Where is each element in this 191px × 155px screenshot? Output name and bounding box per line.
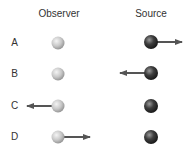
source-ball-b <box>144 66 158 80</box>
observer-ball-a <box>52 37 65 50</box>
source-ball-d <box>144 130 158 144</box>
row-a <box>52 35 183 50</box>
diagram-graphics <box>0 0 191 155</box>
observer-ball-d <box>52 131 65 144</box>
row-c <box>27 99 158 113</box>
row-d <box>52 130 159 144</box>
source-ball-a <box>144 35 158 49</box>
row-b <box>52 66 159 81</box>
source-ball-c <box>144 99 158 113</box>
observer-ball-b <box>52 68 65 81</box>
observer-ball-c <box>52 100 65 113</box>
